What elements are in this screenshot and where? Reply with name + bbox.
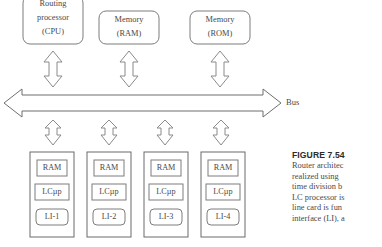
line-card-2-ram-label: RAM xyxy=(100,163,119,172)
module-memory-ram-line-1: Memory xyxy=(115,15,145,24)
bus-label: Bus xyxy=(286,97,300,107)
connector-bus-to-line-card-2 xyxy=(101,120,117,145)
module-routing-processor-line-2: processor xyxy=(37,13,69,22)
line-card-1-ram-label: RAM xyxy=(43,163,62,172)
connector-ram-to-bus xyxy=(120,51,138,87)
line-card-2-proc-label: LCµp xyxy=(99,187,118,196)
line-card-3: RAM LCµp LI-3 xyxy=(144,152,188,237)
figure-caption-body: Router architec realized using time divi… xyxy=(292,161,382,225)
caption-line-5: line card is fun xyxy=(292,203,382,214)
line-card-2: RAM LCµp LI-2 xyxy=(87,152,131,237)
module-routing-processor-line-1: Routing xyxy=(40,0,68,8)
module-memory-ram-line-2: (RAM) xyxy=(117,29,142,38)
module-memory-rom-line-1: Memory xyxy=(206,15,236,24)
line-card-4: RAM LCµp LI-4 xyxy=(201,152,245,237)
line-card-1-li-label: LI-1 xyxy=(45,212,60,221)
line-card-4-proc-label: LCµp xyxy=(213,187,232,196)
module-routing-processor: Routing processor (CPU) xyxy=(23,0,83,44)
connector-rom-to-bus xyxy=(211,51,229,87)
system-bus: Bus xyxy=(4,89,300,117)
line-card-3-proc-label: LCµp xyxy=(156,187,175,196)
connector-bus-to-line-card-4 xyxy=(213,120,229,145)
connector-bus-to-line-card-3 xyxy=(157,120,173,145)
caption-line-4: LC processor is xyxy=(292,193,382,204)
connector-cpu-to-bus xyxy=(44,51,62,87)
module-memory-ram: Memory (RAM) xyxy=(99,11,159,44)
line-card-1-proc-label: LCµp xyxy=(42,187,61,196)
caption-line-6: interface (LI), a xyxy=(292,214,382,225)
caption-line-1: Router architec xyxy=(292,161,382,172)
module-memory-rom: Memory (ROM) xyxy=(190,11,250,44)
figure-caption: FIGURE 7.54 Router architec realized usi… xyxy=(292,150,382,225)
line-card-3-li-label: LI-3 xyxy=(159,212,174,221)
figure-number: FIGURE 7.54 xyxy=(292,150,382,160)
line-card-2-li-label: LI-2 xyxy=(102,212,117,221)
line-card-3-ram-label: RAM xyxy=(157,163,176,172)
line-card-4-ram-label: RAM xyxy=(214,163,233,172)
module-routing-processor-line-3: (CPU) xyxy=(42,27,64,36)
line-card-1: RAM LCµp LI-1 xyxy=(30,152,74,237)
caption-line-2: realized using xyxy=(292,172,382,183)
connector-bus-to-line-card-1 xyxy=(45,120,61,145)
caption-line-3: time division b xyxy=(292,182,382,193)
figure-container: Routing processor (CPU) Memory (RAM) Mem… xyxy=(0,0,382,247)
module-memory-rom-line-2: (ROM) xyxy=(208,29,233,38)
line-card-4-li-label: LI-4 xyxy=(216,212,231,221)
